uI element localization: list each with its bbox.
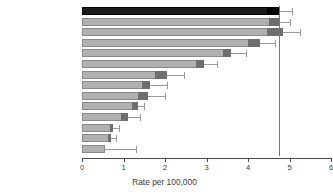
error-bar-cap [140, 114, 141, 121]
error-bar-line [167, 75, 184, 76]
bar-fill [82, 145, 105, 153]
x-tick [82, 158, 83, 162]
bar-cap [248, 39, 260, 47]
error-bar-cap [184, 72, 185, 79]
x-axis-title: Rate per 100,000 [0, 177, 329, 187]
bar-cap [142, 81, 150, 89]
bar-cap [267, 7, 279, 15]
error-bar-cap [119, 125, 120, 132]
bar-fill [82, 60, 204, 68]
bar-row [82, 80, 331, 90]
x-tick-label: 2 [163, 163, 167, 172]
bar-row [82, 38, 331, 48]
error-bar-line [105, 149, 136, 150]
x-tick-label: 5 [287, 163, 291, 172]
error-bar-cap [217, 61, 218, 68]
bar-fill [82, 49, 231, 57]
reference-line [279, 6, 280, 156]
bar-cap [196, 60, 204, 68]
x-tick [207, 158, 208, 162]
error-bar-line [204, 64, 216, 65]
error-bar-cap [144, 103, 145, 110]
error-bar-cap [167, 82, 168, 89]
bar-row [82, 17, 331, 27]
x-tick-label: 3 [204, 163, 208, 172]
error-bar-line [279, 11, 291, 12]
bar-row [82, 59, 331, 69]
plot-area [82, 6, 331, 158]
bar-row [82, 6, 331, 16]
bar-fill [82, 81, 150, 89]
error-bar-cap [165, 93, 166, 100]
x-tick [290, 158, 291, 162]
x-tick-label: 1 [121, 163, 125, 172]
bar-row [82, 123, 331, 133]
x-tick [331, 158, 332, 162]
bar-row [82, 27, 331, 37]
bar-row [82, 144, 331, 154]
error-bar-cap [290, 19, 291, 26]
bar-row [82, 70, 331, 80]
error-bar-cap [246, 50, 247, 57]
error-bar-line [150, 85, 167, 86]
x-tick [248, 158, 249, 162]
bar-fill [82, 124, 113, 132]
bar-cap [155, 71, 167, 79]
bar-cap [138, 92, 148, 100]
bar-fill [82, 102, 138, 110]
error-bar-line [128, 117, 140, 118]
bar-cap [267, 28, 284, 36]
error-bar-line [231, 53, 246, 54]
bar-fill [82, 18, 279, 26]
error-bar-cap [136, 146, 137, 153]
bar-row [82, 133, 331, 143]
error-bar-line [283, 32, 300, 33]
error-bar-line [279, 22, 289, 23]
x-tick-label: 4 [246, 163, 250, 172]
bar-row [82, 112, 331, 122]
error-bar-cap [116, 135, 117, 142]
x-tick [124, 158, 125, 162]
error-bar-line [260, 43, 275, 44]
error-bar-cap [300, 29, 301, 36]
bar-fill [82, 39, 260, 47]
bar-row [82, 91, 331, 101]
bar-fill [82, 134, 111, 142]
bar-fill [82, 7, 279, 15]
bar-row [82, 101, 331, 111]
x-tick-label: 6 [329, 163, 333, 172]
error-bar-line [148, 96, 165, 97]
error-bar-cap [275, 40, 276, 47]
bar-fill [82, 28, 283, 36]
bar-row [82, 48, 331, 58]
bar-cap [223, 49, 231, 57]
x-tick [165, 158, 166, 162]
bar-cap [269, 18, 279, 26]
error-bar-cap [292, 8, 293, 15]
x-tick-label: 0 [80, 163, 84, 172]
